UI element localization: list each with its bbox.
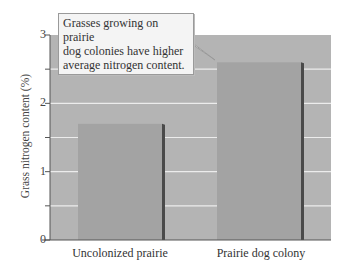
bar-chart: 0 1 2 3 Grass nitrogen content (%) Uncol… bbox=[0, 0, 343, 272]
y-ticks bbox=[45, 35, 50, 240]
y-axis-label: Grass nitrogen content (%) bbox=[19, 71, 31, 201]
bar bbox=[78, 124, 162, 240]
bar-shadow bbox=[162, 124, 165, 240]
y-tick-label: 3 bbox=[32, 27, 46, 42]
y-tick-label: 2 bbox=[32, 95, 46, 110]
annotation-callout: Grasses growing on prairie dog colonies … bbox=[58, 13, 194, 75]
callout-line: average nitrogen content. bbox=[63, 58, 189, 72]
callout-line: Grasses growing on prairie bbox=[63, 16, 189, 44]
callout-line: dog colonies have higher bbox=[63, 44, 189, 58]
bar-shadow bbox=[301, 62, 304, 240]
x-category-label: Prairie dog colony bbox=[196, 246, 326, 261]
bar bbox=[217, 62, 301, 240]
y-tick-label: 0 bbox=[32, 232, 46, 247]
x-category-label: Uncolonized prairie bbox=[55, 246, 185, 261]
y-tick-label: 1 bbox=[32, 164, 46, 179]
